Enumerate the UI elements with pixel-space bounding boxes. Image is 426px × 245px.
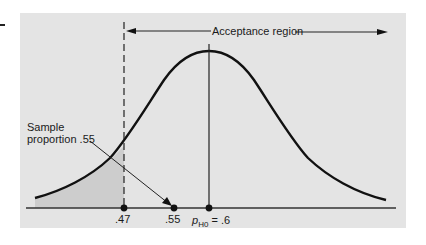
diagram-canvas: Acceptance region Sample proportion .55 … <box>0 0 426 245</box>
tick-label-047: .47 <box>115 213 130 225</box>
point-055-dot <box>171 205 178 212</box>
tick-label-mean: pH0 = .6 <box>192 214 230 231</box>
annotation-line2: proportion .55 <box>27 133 95 145</box>
margin-mark <box>0 24 5 26</box>
mean-equals-value: = .6 <box>211 214 230 226</box>
acceptance-region-label: Acceptance region <box>212 25 303 37</box>
tick-label-055: .55 <box>165 213 180 225</box>
h0-subscript: H0 <box>198 220 208 229</box>
annotation-line1: Sample <box>27 121 64 133</box>
point-mean-dot <box>206 205 213 212</box>
point-047-dot <box>121 205 128 212</box>
